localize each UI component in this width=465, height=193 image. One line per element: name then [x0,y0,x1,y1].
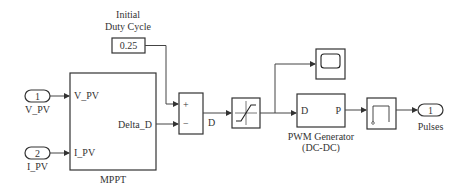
outport-label: Pulses [418,121,444,132]
inport-1-label: V_PV [25,104,51,115]
inport-v-pv[interactable]: 1 V_PV [25,90,51,115]
constant-title-line1: Initial [116,9,140,20]
pwm-generator-block[interactable]: D P PWM Generator (DC-DC) [288,94,355,154]
pwm-label-line2: (DC-DC) [302,142,340,154]
constant-block[interactable]: Initial Duty Cycle 0.25 [105,9,151,53]
inport-2-label: I_PV [27,161,49,172]
inport-i-pv[interactable]: 2 I_PV [25,147,50,172]
sum-plus-sign: + [183,99,189,110]
inport-2-number: 2 [35,148,40,159]
signal-label-d: D [208,117,215,128]
pwm-port-p: P [335,105,341,116]
mppt-port-delta-d: Delta_D [118,119,152,130]
simulink-diagram: Initial Duty Cycle 0.25 1 V_PV 2 I_PV V_… [0,0,465,193]
mppt-port-v-pv: V_PV [74,90,100,101]
saturation-block[interactable] [232,98,260,128]
mppt-subsystem[interactable]: V_PV I_PV Delta_D MPPT [70,73,156,185]
data-type-conversion-block[interactable] [367,98,396,129]
scope-screen-icon [321,54,340,68]
constant-value: 0.25 [120,40,138,51]
pwm-port-d: D [301,105,308,116]
pwm-label-line1: PWM Generator [288,131,355,142]
outport-pulses[interactable]: 1 Pulses [418,104,444,132]
sum-minus-sign: − [183,118,189,129]
constant-title-line2: Duty Cycle [105,21,151,32]
outport-number: 1 [428,105,433,116]
mppt-port-i-pv: I_PV [74,147,96,158]
mppt-label: MPPT [100,174,126,185]
inport-1-number: 1 [35,91,40,102]
scope-block[interactable] [316,49,345,79]
